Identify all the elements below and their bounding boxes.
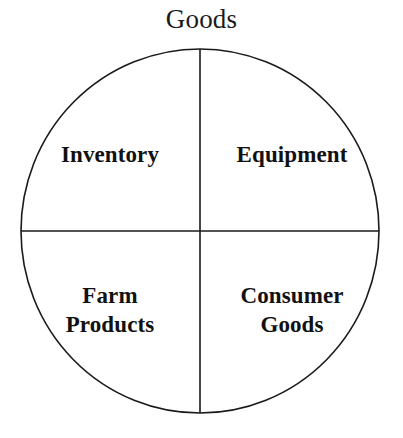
quadrant-label-inventory: Inventory (29, 140, 191, 169)
quadrant-circle-diagram (0, 0, 403, 438)
figure-root: Goods Inventory Equipment Farm Products … (0, 0, 403, 438)
quadrant-label-farm-products: Farm Products (29, 281, 191, 339)
quadrant-label-consumer-goods: Consumer Goods (211, 281, 373, 339)
quadrant-label-equipment: Equipment (211, 140, 373, 169)
